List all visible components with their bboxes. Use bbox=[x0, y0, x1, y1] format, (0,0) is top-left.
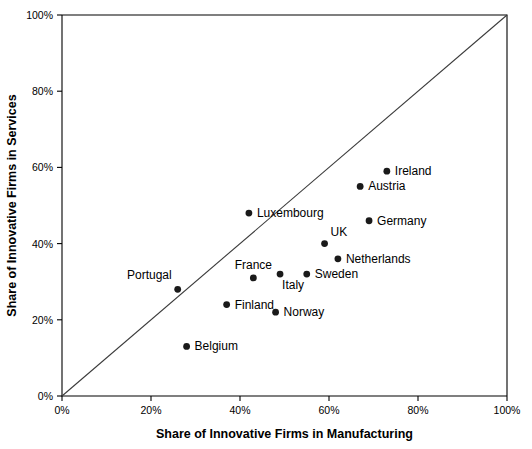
data-point-label: Belgium bbox=[195, 339, 238, 353]
x-tick-label: 80% bbox=[407, 404, 428, 416]
y-tick-label: 40% bbox=[32, 238, 53, 250]
data-point-marker[interactable] bbox=[303, 271, 310, 278]
data-point-marker[interactable] bbox=[174, 286, 181, 293]
y-tick-label: 60% bbox=[32, 161, 53, 173]
data-point-label: Sweden bbox=[315, 267, 358, 281]
scatter-chart-figure: 0%20%40%60%80%100%0%20%40%60%80%100%Shar… bbox=[0, 0, 532, 449]
data-point-marker[interactable] bbox=[366, 217, 373, 224]
data-point-marker[interactable] bbox=[277, 271, 284, 278]
x-tick-label: 20% bbox=[140, 404, 161, 416]
data-point-label: Ireland bbox=[395, 164, 432, 178]
data-point-label: Norway bbox=[284, 305, 325, 319]
x-tick-label: 40% bbox=[229, 404, 250, 416]
x-tick-label: 100% bbox=[494, 404, 521, 416]
data-point-marker[interactable] bbox=[357, 183, 364, 190]
data-point-label: Portugal bbox=[127, 268, 172, 282]
data-point-label: Netherlands bbox=[346, 252, 411, 266]
data-point-marker[interactable] bbox=[183, 343, 190, 350]
data-point-marker[interactable] bbox=[383, 168, 390, 175]
data-point-label: Germany bbox=[377, 214, 426, 228]
data-point-marker[interactable] bbox=[223, 301, 230, 308]
data-point-marker[interactable] bbox=[246, 210, 253, 217]
data-point-label: France bbox=[235, 258, 273, 272]
data-point-label: Luxembourg bbox=[257, 206, 324, 220]
data-point-label: UK bbox=[331, 225, 348, 239]
x-axis-title: Share of Innovative Firms in Manufacturi… bbox=[156, 427, 413, 441]
y-tick-label: 20% bbox=[32, 314, 53, 326]
data-point-marker[interactable] bbox=[250, 274, 257, 281]
x-tick-label: 60% bbox=[318, 404, 339, 416]
chart-canvas: 0%20%40%60%80%100%0%20%40%60%80%100%Shar… bbox=[0, 0, 532, 449]
y-tick-label: 100% bbox=[26, 9, 53, 21]
data-point-marker[interactable] bbox=[272, 309, 279, 316]
data-point-label: Italy bbox=[282, 278, 304, 292]
x-tick-label: 0% bbox=[54, 404, 69, 416]
y-axis-title: Share of Innovative Firms in Services bbox=[5, 94, 19, 316]
data-point-label: Austria bbox=[368, 179, 406, 193]
data-point-marker[interactable] bbox=[321, 240, 328, 247]
y-tick-label: 0% bbox=[38, 390, 53, 402]
data-point-label: Finland bbox=[235, 298, 274, 312]
data-point-marker[interactable] bbox=[335, 255, 342, 262]
y-tick-label: 80% bbox=[32, 85, 53, 97]
